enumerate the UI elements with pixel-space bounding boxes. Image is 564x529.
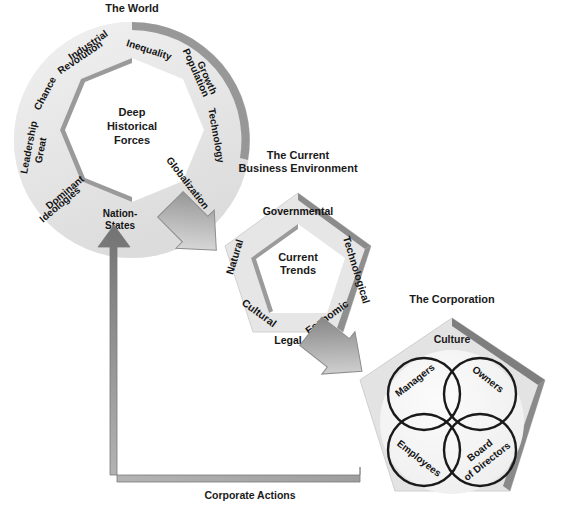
diagram-svg: The World Deep Historical Forces Industr… [0, 0, 564, 529]
environment-segment-governmental[interactable]: Governmental [263, 205, 334, 217]
environment-center-line-1: Current [278, 251, 318, 263]
environment-title-line-1: The Current [267, 149, 330, 161]
world-segment-label-nation-states-1: Nation- [103, 208, 137, 219]
world-center-line-3: Forces [114, 134, 150, 146]
business-environment-group: The Current Business Environment Current… [223, 149, 373, 346]
diagram-canvas: The World Deep Historical Forces Industr… [0, 0, 564, 529]
corporate-actions-label: Corporate Actions [204, 489, 295, 501]
corporation-title: The Corporation [409, 293, 495, 305]
corporation-culture-label: Culture [434, 333, 471, 345]
environment-center-line-2: Trends [280, 264, 316, 276]
environment-segment-label-legal: Legal [274, 334, 302, 346]
world-center-line-2: Historical [107, 120, 157, 132]
environment-segment-label-governmental: Governmental [263, 205, 334, 217]
corporation-group: The Corporation Culture Managers Owners … [360, 293, 545, 494]
world-segment-label-nation-states-2: States [105, 220, 135, 231]
environment-segment-legal[interactable]: Legal [274, 334, 302, 346]
world-center-line-1: Deep [119, 106, 146, 118]
environment-title-line-2: Business Environment [238, 162, 358, 174]
world-title: The World [105, 2, 159, 14]
world-segment-nation-states[interactable]: Nation- States [103, 208, 137, 231]
